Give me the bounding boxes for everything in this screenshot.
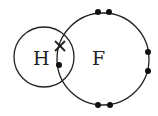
electron-dot-icon	[56, 62, 62, 68]
hydrogen-label: H	[33, 47, 50, 69]
electron-dot-icon	[107, 102, 113, 108]
electron-dot-icon	[95, 102, 101, 108]
fluorine-label: F	[92, 47, 105, 69]
electron-dot-icon	[95, 9, 101, 15]
hf-bond-diagram: H F	[0, 0, 158, 116]
electron-dot-icon	[145, 49, 151, 55]
electron-dot-icon	[145, 68, 151, 74]
electron-dot-icon	[106, 9, 112, 15]
